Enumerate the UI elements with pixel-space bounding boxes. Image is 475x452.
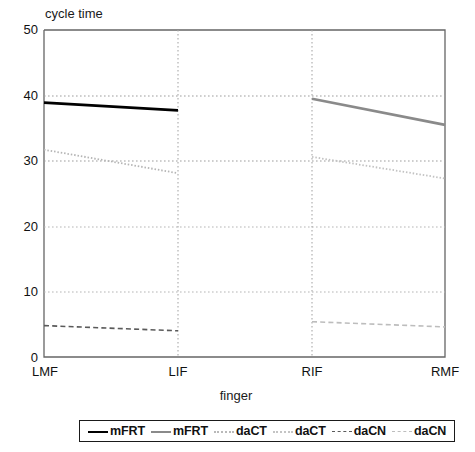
series-mfrt-left xyxy=(44,103,178,111)
series-dact-right xyxy=(312,157,445,179)
plot-frame xyxy=(44,30,445,357)
chart-legend: mFRT mFRT daCT daCT daCN daCN xyxy=(79,420,455,442)
legend-entry-dacn-2: daCN xyxy=(392,424,446,438)
legend-entry-mfrt-gray: mFRT xyxy=(151,424,208,438)
legend-line-icon-solid-black xyxy=(88,426,108,437)
legend-entry-mfrt-black: mFRT xyxy=(88,424,145,438)
series-mfrt-right xyxy=(312,99,445,125)
legend-label-mfrt-gray: mFRT xyxy=(173,424,208,438)
horizontal-gridlines xyxy=(44,96,445,292)
legend-label-dacn-1: daCN xyxy=(354,424,386,438)
legend-entry-dact-1: daCT xyxy=(214,424,267,438)
legend-line-icon-dashed-dark xyxy=(332,426,352,437)
legend-label-mfrt-black: mFRT xyxy=(110,424,145,438)
legend-label-dact-1: daCT xyxy=(236,424,267,438)
legend-entry-dacn-1: daCN xyxy=(332,424,386,438)
legend-label-dacn-2: daCN xyxy=(414,424,446,438)
plot-area xyxy=(0,0,475,452)
legend-line-icon-dotted-1 xyxy=(214,426,234,437)
legend-line-icon-dotted-2 xyxy=(273,426,293,437)
legend-entry-dact-2: daCT xyxy=(273,424,326,438)
legend-line-icon-solid-gray xyxy=(151,426,171,437)
series-dacn-left xyxy=(44,326,178,331)
legend-label-dact-2: daCT xyxy=(295,424,326,438)
cycle-time-line-chart: cycle time finger 50 40 30 20 10 0 LMF L… xyxy=(0,0,475,452)
vertical-gridlines xyxy=(178,30,312,357)
legend-line-icon-dashed-light xyxy=(392,426,412,437)
series-dacn-right xyxy=(312,322,445,327)
